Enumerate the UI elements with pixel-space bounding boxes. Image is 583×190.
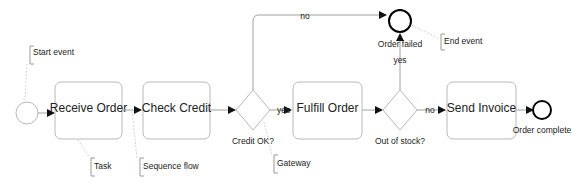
annotation-start-event-text: Start event xyxy=(33,47,75,57)
flow-label-stock-no: no xyxy=(425,105,435,115)
sequence-flow-credit-no xyxy=(253,15,386,90)
annotation-task-text: Task xyxy=(94,161,112,171)
gateway-out-of-stock-label: Out of stock? xyxy=(375,136,425,146)
end-event-order-failed[interactable]: Order failed xyxy=(378,10,423,49)
gateway-out-of-stock[interactable]: Out of stock? xyxy=(375,90,425,146)
gateway-credit-ok[interactable]: Credit OK? xyxy=(232,90,274,146)
end-event-order-complete-label: Order complete xyxy=(513,125,572,135)
task-receive-order-label: Receive Order xyxy=(50,101,127,115)
annotation-end-event: End event xyxy=(412,25,483,50)
gateway-credit-ok-label: Credit OK? xyxy=(232,136,274,146)
annotation-end-event-text: End event xyxy=(444,36,483,46)
task-receive-order[interactable]: Receive Order xyxy=(50,82,127,139)
task-check-credit-label: Check Credit xyxy=(142,101,212,115)
task-fulfill-order-label: Fulfill Order xyxy=(296,101,358,115)
bpmn-diagram: Start event Receive Order Check Credit T… xyxy=(0,0,583,190)
task-send-invoice[interactable]: Send Invoice xyxy=(447,82,517,139)
end-event-order-complete[interactable]: Order complete xyxy=(513,101,572,135)
annotation-gateway-text: Gateway xyxy=(277,158,311,168)
task-fulfill-order[interactable]: Fulfill Order xyxy=(293,82,362,139)
start-event[interactable] xyxy=(16,102,38,124)
annotation-task: Task xyxy=(78,140,112,176)
flow-label-credit-no: no xyxy=(300,11,310,21)
flow-label-stock-yes: yes xyxy=(393,55,406,65)
task-check-credit[interactable]: Check Credit xyxy=(142,82,212,139)
task-send-invoice-label: Send Invoice xyxy=(447,101,517,115)
flow-label-credit-yes: yes xyxy=(277,105,290,115)
annotation-sequence-flow-text: Sequence flow xyxy=(143,161,200,171)
end-event-order-failed-label: Order failed xyxy=(378,39,423,49)
